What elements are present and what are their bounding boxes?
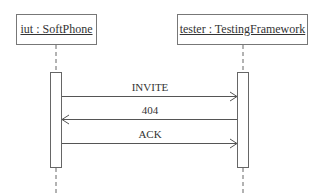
message-label-ack: ACK [138, 128, 161, 140]
message-arrow-ack [62, 139, 237, 148]
participant-box-iut: iut : SoftPhone [16, 14, 97, 45]
participant-label-iut: iut : SoftPhone [20, 22, 92, 37]
activation-bar-tester [238, 73, 249, 168]
message-arrow-invite [62, 92, 237, 101]
activation-bar-iut [51, 73, 62, 168]
message-arrow-404 [62, 115, 237, 124]
participant-label-tester: tester : TestingFramework [180, 22, 306, 37]
message-label-404: 404 [142, 104, 159, 116]
participant-box-tester: tester : TestingFramework [177, 14, 308, 45]
message-label-invite: INVITE [132, 81, 169, 93]
